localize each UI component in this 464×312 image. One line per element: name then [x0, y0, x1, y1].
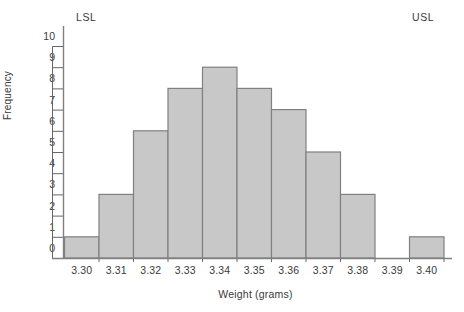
histogram-bar-3.32 — [134, 131, 169, 258]
x-axis-tick-label-3.40: 3.40 — [407, 264, 447, 276]
histogram-figure: Frequency LSL USL 012345678910 3.303.313… — [0, 0, 464, 312]
histogram-bar-3.35 — [237, 88, 272, 258]
histogram-bar-3.36 — [272, 110, 307, 258]
x-axis-title: Weight (grams) — [63, 288, 448, 300]
histogram-bars — [65, 67, 445, 258]
histogram-bar-3.31 — [99, 194, 134, 258]
histogram-bar-3.40 — [410, 237, 445, 258]
histogram-bar-3.37 — [306, 152, 341, 258]
histogram-bar-3.38 — [341, 194, 376, 258]
histogram-bar-3.34 — [203, 67, 238, 258]
histogram-bar-3.33 — [168, 88, 203, 258]
histogram-bar-3.30 — [65, 237, 100, 258]
